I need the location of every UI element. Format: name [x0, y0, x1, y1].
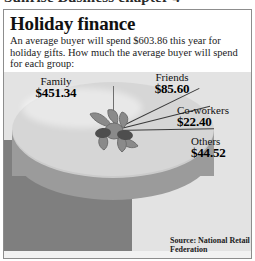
- label-friends: Friends $85.60: [142, 72, 202, 94]
- graphic-frame: Holiday finance An average buyer will sp…: [3, 9, 252, 259]
- graphic-header: Holiday finance An average buyer will sp…: [4, 10, 251, 72]
- source-credit: Source: National Retail Federation: [170, 236, 252, 254]
- label-others: Others $44.52: [191, 136, 252, 158]
- pie-chart: [12, 82, 214, 222]
- label-others-value: $44.52: [191, 147, 252, 158]
- label-family-value: $451.34: [22, 87, 90, 98]
- cutoff-headline-text: Sunrise Business chapter 4: [4, 0, 180, 6]
- graphic-deck: An average buyer will spend $603.86 this…: [10, 35, 245, 70]
- label-coworkers-value: $22.40: [177, 116, 252, 127]
- label-coworkers: Co-workers $22.40: [177, 105, 252, 127]
- gift-bow-icon: [84, 104, 144, 160]
- page-title: Holiday finance: [10, 13, 245, 34]
- label-family: Family $451.34: [22, 76, 90, 98]
- infographic-root: Sunrise Business chapter 4 Holiday finan…: [0, 0, 255, 261]
- chart-canvas: [4, 72, 251, 259]
- cutoff-headline-strip: Sunrise Business chapter 4: [0, 0, 255, 9]
- label-friends-value: $85.60: [142, 83, 202, 94]
